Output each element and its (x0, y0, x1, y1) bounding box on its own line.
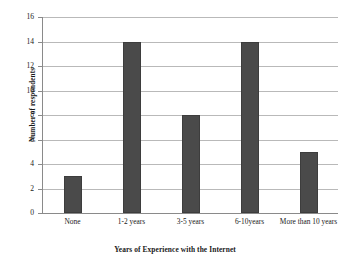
bar-3 (241, 42, 259, 214)
y-tick-6 (38, 140, 42, 141)
y-tick-8 (38, 115, 42, 116)
y-tick-label-2: 2 (12, 185, 34, 193)
bar-0 (64, 176, 82, 213)
bar-chart: Number of respondents 0246810121416 None… (0, 0, 350, 267)
bar-1 (123, 42, 141, 214)
y-tick-label-0: 0 (12, 209, 34, 217)
y-tick-10 (38, 91, 42, 92)
y-tick-16 (38, 17, 42, 18)
bar-2 (182, 115, 200, 213)
y-tick-14 (38, 42, 42, 43)
y-axis-title: Number of respondents (29, 25, 37, 185)
gridline-0 (43, 213, 338, 214)
y-tick-2 (38, 189, 42, 190)
y-tick-12 (38, 66, 42, 67)
y-tick-4 (38, 164, 42, 165)
x-tick-label-4: More than 10 years (273, 217, 345, 227)
y-tick-label-16: 16 (12, 13, 34, 21)
x-axis-title: Years of Experience with the Internet (0, 245, 350, 254)
bar-4 (300, 152, 318, 213)
plot-area (43, 17, 338, 213)
y-tick-0 (38, 213, 42, 214)
